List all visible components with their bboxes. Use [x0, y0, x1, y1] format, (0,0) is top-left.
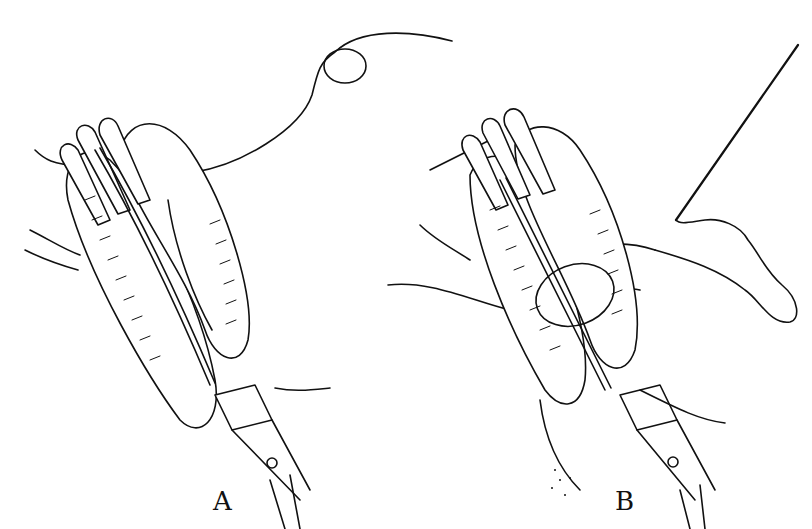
- panel-a: [25, 33, 452, 529]
- surgical-illustration: A B: [0, 0, 812, 529]
- forceps-hinge-b: [668, 457, 678, 467]
- forceps-clamp-b: [620, 385, 677, 430]
- forceps-hinge-a: [267, 458, 277, 468]
- forceps-clamp-a: [215, 385, 272, 430]
- panel-b: [388, 45, 798, 529]
- suture-thread-a: [195, 33, 452, 172]
- panel-label-b: B: [615, 488, 634, 514]
- panel-label-a: A: [213, 488, 232, 514]
- needle-b: [676, 45, 798, 220]
- suture-thread-b: [655, 220, 797, 323]
- panel-a-drawing: [0, 0, 812, 529]
- thread-loop-a: [324, 49, 366, 83]
